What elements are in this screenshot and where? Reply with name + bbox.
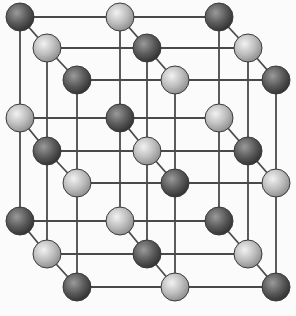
dark-ion-sphere <box>205 3 233 31</box>
dark-ion-sphere <box>133 34 161 62</box>
light-ion-sphere <box>161 66 189 94</box>
ion-spheres <box>6 3 290 301</box>
light-ion-sphere <box>205 104 233 132</box>
light-ion-sphere <box>262 169 290 197</box>
crystal-lattice-diagram <box>0 0 296 316</box>
dark-ion-sphere <box>6 3 34 31</box>
dark-ion-sphere <box>6 207 34 235</box>
light-ion-sphere <box>234 34 262 62</box>
dark-ion-sphere <box>63 66 91 94</box>
dark-ion-sphere <box>262 273 290 301</box>
light-ion-sphere <box>133 137 161 165</box>
dark-ion-sphere <box>262 66 290 94</box>
dark-ion-sphere <box>63 273 91 301</box>
dark-ion-sphere <box>133 240 161 268</box>
dark-ion-sphere <box>234 137 262 165</box>
light-ion-sphere <box>106 3 134 31</box>
dark-ion-sphere <box>161 169 189 197</box>
light-ion-sphere <box>33 240 61 268</box>
dark-ion-sphere <box>106 104 134 132</box>
dark-ion-sphere <box>33 137 61 165</box>
dark-ion-sphere <box>205 207 233 235</box>
light-ion-sphere <box>6 104 34 132</box>
light-ion-sphere <box>161 273 189 301</box>
light-ion-sphere <box>106 207 134 235</box>
light-ion-sphere <box>33 34 61 62</box>
light-ion-sphere <box>234 240 262 268</box>
light-ion-sphere <box>63 169 91 197</box>
